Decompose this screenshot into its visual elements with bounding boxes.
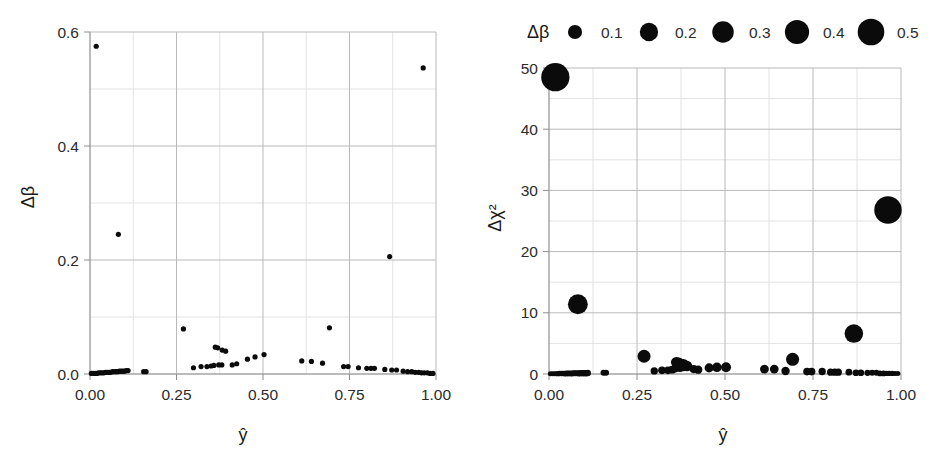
ytick-label: 0: [529, 366, 538, 383]
data-point: [603, 370, 609, 376]
ytick-label: 40: [521, 121, 539, 138]
ytick-label: 20: [521, 243, 539, 260]
xtick-label: 0.25: [161, 386, 191, 403]
panel-left-svg: 0.000.250.500.751.000.00.20.40.6 ŷ Δβ: [0, 0, 471, 454]
right-legend: Δβ0.10.20.30.40.5: [527, 19, 919, 46]
data-point: [125, 368, 130, 373]
data-point: [721, 362, 731, 372]
data-point: [219, 362, 224, 367]
data-point: [760, 365, 769, 374]
data-point: [299, 358, 304, 363]
right-yaxis-title: Δχ²: [485, 204, 505, 231]
ytick-label: 10: [521, 304, 539, 321]
legend-label-4: 0.4: [823, 24, 845, 41]
data-point: [786, 353, 799, 366]
legend-label-2: 0.2: [675, 24, 697, 41]
data-point: [309, 359, 314, 364]
data-point: [845, 369, 852, 376]
data-point: [430, 371, 435, 376]
right-xaxis-title: ŷ: [719, 425, 728, 445]
data-point: [245, 357, 250, 362]
data-point: [387, 254, 392, 259]
data-point: [818, 368, 825, 375]
data-point: [858, 369, 865, 376]
data-point: [421, 65, 426, 70]
xtick-label: 0.50: [710, 386, 741, 403]
ytick-label: 30: [521, 182, 539, 199]
data-point: [327, 325, 332, 330]
data-point: [223, 349, 228, 354]
ytick-label: 50: [521, 60, 539, 77]
panel-right-svg: Δβ0.10.20.30.40.5 0.000.250.500.751.0001…: [471, 0, 942, 454]
panel-delta-chisq: Δβ0.10.20.30.40.5 0.000.250.500.751.0001…: [471, 0, 942, 454]
left-grid: [90, 32, 436, 374]
data-point: [382, 367, 387, 372]
xtick-label: 0.75: [798, 386, 828, 403]
data-point: [845, 324, 864, 343]
data-point: [712, 362, 722, 372]
data-point: [694, 366, 702, 374]
data-point: [116, 232, 121, 237]
legend-marker-2: [640, 23, 658, 41]
legend-marker-4: [785, 20, 809, 44]
data-point: [770, 365, 779, 374]
left-markers: [89, 44, 436, 376]
xtick-label: 1.00: [886, 386, 917, 403]
data-point: [874, 196, 901, 223]
data-point: [143, 369, 148, 374]
data-point: [541, 63, 569, 91]
data-point: [230, 362, 235, 367]
data-point: [346, 364, 351, 369]
xtick-label: 0.00: [534, 386, 565, 403]
ytick-label: 0.6: [57, 24, 79, 41]
scatter-figure: 0.000.250.500.751.000.00.20.40.6 ŷ Δβ Δβ…: [0, 0, 942, 454]
xtick-label: 0.50: [248, 386, 279, 403]
data-point: [372, 366, 377, 371]
data-point: [781, 367, 789, 375]
right-markers: [541, 63, 901, 376]
data-point: [234, 361, 239, 366]
data-point: [389, 367, 394, 372]
data-point: [211, 363, 216, 368]
legend-marker-3: [712, 21, 734, 43]
left-xaxis-title: ŷ: [239, 425, 248, 445]
data-point: [181, 326, 186, 331]
legend-label-3: 0.3: [749, 24, 771, 41]
data-point: [651, 367, 658, 374]
legend-marker-5: [858, 19, 885, 46]
data-point: [584, 370, 590, 376]
data-point: [638, 350, 651, 363]
xtick-label: 0.00: [75, 386, 106, 403]
legend-title: Δβ: [527, 22, 549, 42]
xtick-label: 1.00: [421, 386, 452, 403]
data-point: [835, 369, 842, 376]
data-point: [261, 352, 266, 357]
left-yaxis-title: Δβ: [18, 186, 38, 208]
ytick-label: 0.2: [57, 252, 79, 269]
data-point: [401, 369, 406, 374]
xtick-label: 0.25: [622, 386, 652, 403]
data-point: [568, 294, 588, 314]
data-point: [94, 44, 99, 49]
data-point: [252, 354, 257, 359]
panel-delta-beta: 0.000.250.500.751.000.00.20.40.6 ŷ Δβ: [0, 0, 471, 454]
data-point: [895, 371, 900, 376]
legend-label-1: 0.1: [601, 24, 623, 41]
legend-label-5: 0.5: [897, 24, 919, 41]
data-point: [356, 365, 361, 370]
left-axes: [84, 32, 436, 380]
data-point: [198, 364, 203, 369]
data-point: [341, 364, 346, 369]
data-point: [679, 363, 687, 371]
ytick-label: 0.0: [57, 366, 79, 383]
ytick-label: 0.4: [57, 138, 79, 155]
legend-marker-1: [568, 25, 582, 39]
data-point: [215, 345, 220, 350]
xtick-label: 0.75: [334, 386, 364, 403]
data-point: [191, 365, 196, 370]
data-point: [808, 368, 816, 376]
data-point: [320, 361, 325, 366]
data-point: [394, 367, 399, 372]
